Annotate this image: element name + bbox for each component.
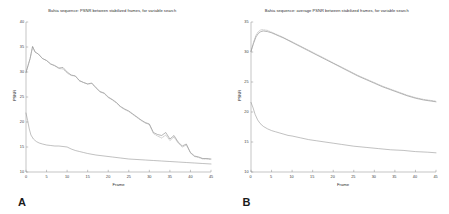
series-unstabilized-psnr	[26, 113, 211, 164]
series-stabilized-psnr-dashed	[26, 47, 211, 160]
x-tick-label: 10	[61, 175, 73, 179]
x-tick-label: 40	[184, 175, 196, 179]
series-stabilized-psnr-solid	[26, 47, 211, 160]
figure-panel-row: Bahia sequence: PSNR between stabilized …	[0, 0, 449, 214]
axis-spines	[251, 22, 436, 172]
x-tick-label: 40	[409, 175, 421, 179]
x-tick-label: 30	[368, 175, 380, 179]
y-tick-label: 10	[13, 170, 24, 174]
x-tick-label: 10	[286, 175, 298, 179]
chart-panel-a: Bahia sequence: PSNR between stabilized …	[0, 0, 225, 214]
x-tick-label: 45	[430, 175, 442, 179]
x-tick-label: 15	[306, 175, 318, 179]
x-tick-label: 0	[20, 175, 32, 179]
chart-panel-b: Bahia sequence: average PSNR between sta…	[225, 0, 449, 214]
plot-area-b: PSNR Frame 10152025303505101520253035404…	[225, 0, 449, 214]
x-axis-title-b: Frame	[251, 182, 436, 187]
x-tick-label: 30	[143, 175, 155, 179]
x-tick-label: 5	[265, 175, 277, 179]
x-axis-title-a: Frame	[26, 182, 211, 187]
y-tick-label: 30	[238, 50, 249, 54]
y-axis-title-b: PSNR	[236, 82, 241, 110]
x-tick-label: 15	[82, 175, 94, 179]
y-tick-label: 25	[13, 95, 24, 99]
x-tick-label: 0	[245, 175, 257, 179]
y-tick-label: 40	[13, 20, 24, 24]
panel-letter-b: B	[243, 196, 251, 208]
y-tick-label: 20	[13, 120, 24, 124]
plot-area-a: PSNR Frame 10152025303540051015202530354…	[0, 0, 225, 214]
x-tick-label: 45	[205, 175, 217, 179]
x-tick-label: 25	[347, 175, 359, 179]
series-average-unstabilized-psnr	[251, 102, 436, 152]
x-tick-label: 25	[123, 175, 135, 179]
y-tick-label: 10	[238, 170, 249, 174]
series-average-stabilized-psnr-solid	[251, 31, 436, 102]
y-tick-label: 25	[238, 80, 249, 84]
axis-spines	[26, 22, 211, 172]
panel-letter-a: A	[18, 196, 26, 208]
y-tick-label: 15	[13, 145, 24, 149]
x-tick-label: 20	[327, 175, 339, 179]
series-average-stabilized-psnr-dashed	[251, 30, 436, 101]
y-tick-label: 20	[238, 110, 249, 114]
y-tick-label: 35	[13, 45, 24, 49]
x-tick-label: 35	[388, 175, 400, 179]
x-tick-label: 5	[41, 175, 53, 179]
y-tick-label: 15	[238, 140, 249, 144]
y-tick-label: 35	[238, 20, 249, 24]
y-tick-label: 30	[13, 70, 24, 74]
x-tick-label: 35	[164, 175, 176, 179]
x-tick-label: 20	[102, 175, 114, 179]
